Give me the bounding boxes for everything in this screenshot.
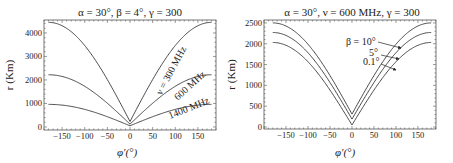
panel-1-x-tick-label: 150: [192, 131, 205, 141]
panel-1-y-tick-label: 3000: [25, 51, 42, 61]
panel-1-y-tick-label: 0: [38, 122, 42, 132]
panel-1-x-tick-label: −100: [76, 131, 94, 141]
panel-2-x-tick-label: 150: [412, 130, 425, 140]
panel-1-y-axis-label: r (Km): [3, 60, 16, 91]
panel-2-y-axis-label: r (Km): [225, 59, 238, 90]
panel-2-y-tick-label: 0: [258, 122, 262, 132]
panel-1-x-tick-label: 0: [128, 131, 132, 141]
panel-1-x-tick-label: −50: [101, 131, 114, 141]
panel-2-y-tick-label: 500: [249, 101, 262, 111]
panel-2-x-axis-label: φ′(°): [335, 146, 356, 159]
figure: α = 30°, β = 4°, γ = 300−150−100−5005010…: [0, 0, 453, 163]
panel-2-x-tick-label: 50: [370, 130, 379, 140]
panel-1-y-tick-label: 1000: [25, 98, 42, 108]
panel-2-x-tick-label: 100: [390, 130, 403, 140]
panel-2-series-label-1: β = 10°: [346, 36, 376, 47]
panel-2-series-label-3: 0.1°: [363, 56, 380, 67]
panel-1-x-tick-label: 100: [169, 131, 182, 141]
panel-2-y-tick-label: 1500: [245, 60, 262, 70]
panel-1-plot-frame: [44, 20, 216, 130]
panel-2-x-tick-label: −100: [299, 130, 317, 140]
panel-1-y-tick-label: 4000: [25, 28, 42, 38]
panel-2-x-tick-label: −150: [277, 130, 295, 140]
panel-2-annotation-arrow-2: [381, 55, 399, 59]
panel-2-x-tick-label: 0: [350, 130, 354, 140]
panel-2-y-tick-label: 2000: [245, 39, 262, 49]
panel-2-series-line-3: [273, 42, 431, 124]
panel-1-x-axis-label: φ′(°): [117, 146, 138, 159]
panel-1-title: α = 30°, β = 4°, γ = 300: [78, 6, 183, 18]
panel-1-y-tick-label: 2000: [25, 75, 42, 85]
panel-1-series-label-3: 1400 MHz: [167, 94, 212, 121]
panel-2-title: α = 30°, ν = 600 MHz, γ = 300: [284, 6, 420, 18]
panel-2-x-tick-label: −50: [323, 130, 336, 140]
panel-2-y-tick-label: 1000: [245, 80, 262, 90]
panel-2-y-tick-label: 2500: [245, 18, 262, 28]
panel-1-x-tick-label: 50: [148, 131, 157, 141]
panel-1-x-tick-label: −150: [53, 131, 71, 141]
